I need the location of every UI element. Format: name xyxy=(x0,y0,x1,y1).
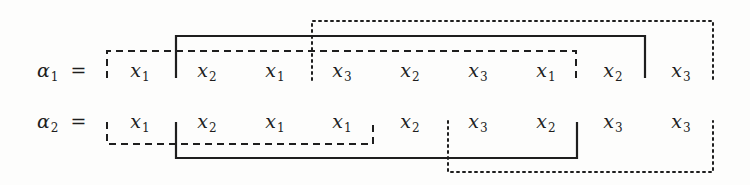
variable-subscript: 1 xyxy=(277,70,285,84)
variable-subscript: 1 xyxy=(344,121,352,135)
equals-sign: = xyxy=(71,110,87,132)
sequence-element: x1 xyxy=(536,61,555,83)
sequence-bracket-diagram: α1 = α2 = x1x2x1x3x2x3x1x2x3x1x2x1x1x2x3… xyxy=(0,0,750,185)
sequence-element: x3 xyxy=(603,112,622,134)
sequence-element: x2 xyxy=(603,61,622,83)
solid-bracket-row2 xyxy=(176,122,577,158)
sequence-element: x2 xyxy=(400,112,419,134)
variable-symbol: x xyxy=(603,59,614,81)
variable-subscript: 3 xyxy=(480,70,488,84)
variable-symbol: x xyxy=(400,110,411,132)
variable-subscript: 2 xyxy=(412,121,420,135)
sequence-element: x3 xyxy=(671,112,690,134)
variable-subscript: 2 xyxy=(615,70,623,84)
variable-subscript: 2 xyxy=(209,70,217,84)
variable-symbol: x xyxy=(197,110,208,132)
variable-symbol: x xyxy=(265,59,276,81)
row-label-alpha-2: α2 = xyxy=(37,112,86,134)
variable-symbol: x xyxy=(536,59,547,81)
variable-subscript: 1 xyxy=(277,121,285,135)
sequence-element: x3 xyxy=(468,112,487,134)
alpha-subscript: 2 xyxy=(51,121,59,135)
variable-subscript: 3 xyxy=(683,70,691,84)
sequence-element: x3 xyxy=(332,61,351,83)
variable-symbol: x xyxy=(671,59,682,81)
sequence-element: x1 xyxy=(265,61,284,83)
variable-symbol: x xyxy=(130,59,141,81)
sequence-element: x3 xyxy=(468,61,487,83)
alpha-subscript: 1 xyxy=(51,70,59,84)
alpha-symbol: α xyxy=(37,59,50,81)
variable-symbol: x xyxy=(468,110,479,132)
variable-symbol: x xyxy=(400,59,411,81)
variable-symbol: x xyxy=(130,110,141,132)
variable-subscript: 1 xyxy=(548,70,556,84)
sequence-element: x1 xyxy=(332,112,351,134)
variable-subscript: 2 xyxy=(209,121,217,135)
bracket-lines xyxy=(0,0,750,185)
sequence-element: x2 xyxy=(536,112,555,134)
row-label-alpha-1: α1 = xyxy=(37,61,86,83)
variable-symbol: x xyxy=(332,59,343,81)
sequence-element: x2 xyxy=(400,61,419,83)
sequence-element: x1 xyxy=(130,112,149,134)
variable-subscript: 1 xyxy=(142,121,150,135)
variable-symbol: x xyxy=(332,110,343,132)
variable-symbol: x xyxy=(468,59,479,81)
variable-subscript: 2 xyxy=(548,121,556,135)
variable-symbol: x xyxy=(603,110,614,132)
alpha-symbol: α xyxy=(37,110,50,132)
variable-subscript: 3 xyxy=(683,121,691,135)
variable-subscript: 3 xyxy=(344,70,352,84)
variable-symbol: x xyxy=(197,59,208,81)
equals-sign: = xyxy=(71,59,87,81)
variable-subscript: 3 xyxy=(480,121,488,135)
sequence-element: x2 xyxy=(197,61,216,83)
sequence-element: x1 xyxy=(265,112,284,134)
sequence-element: x3 xyxy=(671,61,690,83)
sequence-element: x2 xyxy=(197,112,216,134)
variable-symbol: x xyxy=(671,110,682,132)
variable-subscript: 2 xyxy=(412,70,420,84)
variable-symbol: x xyxy=(536,110,547,132)
variable-symbol: x xyxy=(265,110,276,132)
variable-subscript: 3 xyxy=(615,121,623,135)
sequence-element: x1 xyxy=(130,61,149,83)
variable-subscript: 1 xyxy=(142,70,150,84)
